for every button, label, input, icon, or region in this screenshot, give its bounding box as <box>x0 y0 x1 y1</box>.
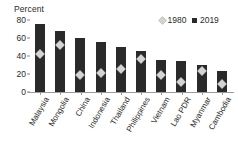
bar-2019 <box>176 61 186 93</box>
y-axis-title: Percent <box>14 4 44 14</box>
bar-group <box>111 20 131 92</box>
x-tick-mark <box>101 92 102 95</box>
x-tick-mark <box>202 92 203 95</box>
x-tick-mark <box>81 92 82 95</box>
bar-group <box>192 20 212 92</box>
x-tick-mark <box>121 92 122 95</box>
bar-2019 <box>96 42 106 92</box>
plot-area: 020406080 <box>30 20 232 92</box>
x-tick-mark <box>141 92 142 95</box>
x-tick-mark <box>161 92 162 95</box>
chart-container: Percent 1980 2019 020406080 MalaysiaMong… <box>0 0 238 146</box>
bar-group <box>50 20 70 92</box>
x-axis-label: Mongolia <box>48 96 71 128</box>
bar-group <box>212 20 232 92</box>
x-tick-mark <box>40 92 41 95</box>
bar-group <box>131 20 151 92</box>
bar-group <box>171 20 191 92</box>
x-tick-mark <box>60 92 61 95</box>
x-tick-mark <box>222 92 223 95</box>
x-axis-label: China <box>74 96 91 118</box>
x-axis-line <box>28 92 234 93</box>
bar-2019 <box>55 31 65 92</box>
bar-group <box>151 20 171 92</box>
bar-group <box>91 20 111 92</box>
bar-group <box>30 20 50 92</box>
bar-group <box>70 20 90 92</box>
x-tick-mark <box>182 92 183 95</box>
bar-2019 <box>75 38 85 92</box>
